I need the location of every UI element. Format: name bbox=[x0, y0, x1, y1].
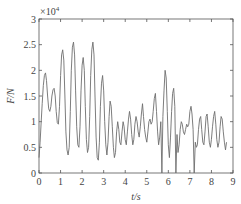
axis-ticks bbox=[39, 19, 233, 173]
y-tick-label: 3 bbox=[31, 14, 36, 25]
x-tick-label: 1 bbox=[58, 176, 63, 187]
y-tick-label: 1 bbox=[31, 116, 36, 127]
x-tick-label: 6 bbox=[166, 176, 171, 187]
y-tick-label: 2 bbox=[31, 65, 36, 76]
y-tick-labels: 00.511.522.53 bbox=[24, 14, 37, 179]
x-tick-label: 7 bbox=[187, 176, 192, 187]
y-tick-label: 0.5 bbox=[24, 142, 37, 153]
plot-frame bbox=[39, 19, 233, 173]
y-axis-label: F/N bbox=[5, 87, 16, 105]
x-tick-labels: 0123456789 bbox=[37, 176, 236, 187]
x-tick-label: 3 bbox=[101, 176, 106, 187]
x-tick-label: 2 bbox=[80, 176, 85, 187]
x-tick-label: 9 bbox=[231, 176, 236, 187]
y-tick-label: 2.5 bbox=[24, 39, 37, 50]
x-tick-label: 5 bbox=[144, 176, 149, 187]
force-time-chart: 0123456789 00.511.522.53 ×104 t/s F/N bbox=[0, 0, 241, 204]
y-exponent-label: ×104 bbox=[40, 5, 60, 17]
x-axis-label: t/s bbox=[131, 191, 141, 202]
x-tick-label: 4 bbox=[123, 176, 128, 187]
x-tick-label: 0 bbox=[37, 176, 42, 187]
y-tick-label: 0 bbox=[31, 168, 36, 179]
x-tick-label: 8 bbox=[209, 176, 214, 187]
y-tick-label: 1.5 bbox=[24, 91, 37, 102]
force-series-line bbox=[39, 42, 227, 173]
